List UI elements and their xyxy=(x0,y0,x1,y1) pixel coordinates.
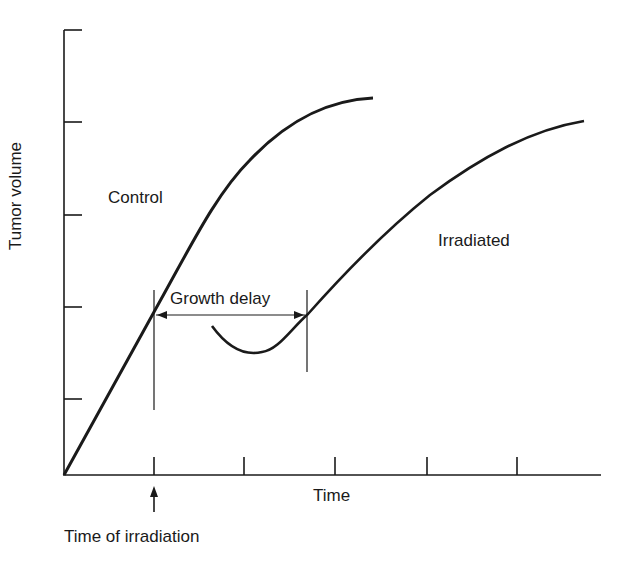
irradiated-label: Irradiated xyxy=(438,231,510,251)
time-of-irradiation-label: Time of irradiation xyxy=(64,527,199,547)
control-label: Control xyxy=(108,188,163,208)
growth-delay-label: Growth delay xyxy=(170,289,270,309)
irradiated-curve xyxy=(212,121,584,353)
chart-canvas xyxy=(0,0,626,569)
x-axis-label: Time xyxy=(313,486,350,506)
y-axis-label: Tumor volume xyxy=(6,142,26,250)
control-curve xyxy=(64,98,373,475)
axes xyxy=(63,30,601,475)
